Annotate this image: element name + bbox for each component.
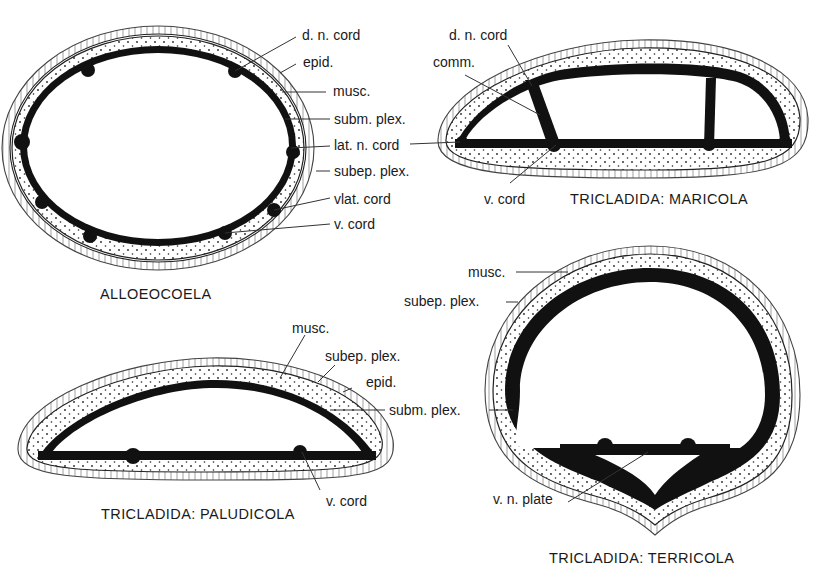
panel-title: TRICLADIDA: TERRICOLA [549, 550, 734, 565]
panel-title: TRICLADIDA: PALUDICOLA [101, 506, 295, 522]
label-epid: epid. [366, 374, 396, 390]
panel-maricola: d. n. cord comm. v. cord TRICLADIDA: MAR… [410, 27, 808, 207]
label-d-n-cord: d. n. cord [302, 27, 360, 43]
nervous-system-cross-sections-figure: d. n. cord epid. musc. subm. plex. lat. … [0, 0, 816, 565]
label-comm: comm. [433, 54, 475, 70]
panel-title: ALLOEOCOELA [100, 286, 212, 302]
panel-title: TRICLADIDA: MARICOLA [570, 191, 748, 207]
label-musc: musc. [333, 83, 370, 99]
label-d-n-cord: d. n. cord [449, 27, 507, 43]
label-subep-plex: subep. plex. [334, 163, 410, 179]
label-v-cord: v. cord [334, 216, 375, 232]
label-v-cord: v. cord [326, 493, 367, 509]
label-lat-n-cord: lat. n. cord [334, 137, 399, 153]
label-subep-plex: subep. plex. [325, 348, 401, 364]
label-v-cord: v. cord [484, 191, 525, 207]
panel-paludicola: musc. subep. plex. epid. subm. plex. v. … [18, 320, 461, 522]
label-musc: musc. [292, 320, 329, 336]
panel-alloeocoela: d. n. cord epid. musc. subm. plex. lat. … [2, 26, 410, 302]
label-subm-plex: subm. plex. [334, 111, 406, 127]
label-vlat-cord: vlat. cord [334, 191, 391, 207]
label-subm-plex: subm. plex. [389, 402, 461, 418]
label-subep-plex: subep. plex. [404, 293, 480, 309]
label-v-n-plate: v. n. plate [493, 491, 553, 507]
label-musc: musc. [468, 264, 505, 280]
label-epid: epid. [303, 54, 333, 70]
panel-terricola: musc. subep. plex. v. n. plate TRICLADID… [404, 246, 800, 565]
